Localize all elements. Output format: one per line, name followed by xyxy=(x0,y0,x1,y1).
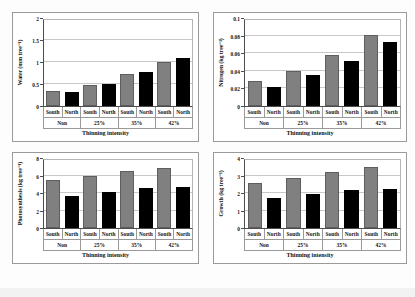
bar-series-nitrogen xyxy=(245,20,400,106)
x-group-label-35pct: 35% xyxy=(119,240,156,250)
bar-slot xyxy=(342,160,361,228)
panel-grid: 00.511.52Water (mm tree⁻¹)SouthNorthSout… xyxy=(0,0,415,280)
bar-photosynthesis-Non-south xyxy=(46,180,60,228)
y-tick-mark xyxy=(40,40,43,41)
bar-slot xyxy=(155,160,174,228)
y-axis-label-water: Water (mm tree⁻¹) xyxy=(16,19,23,107)
bar-slot xyxy=(342,20,361,106)
bar-slot xyxy=(118,20,137,106)
x-axis-group-band-water: Non25%35%42% xyxy=(43,118,193,129)
x-aspect-label-south: South xyxy=(362,229,382,239)
x-aspect-label-south: South xyxy=(81,229,100,239)
panel-water-frame: 00.511.52Water (mm tree⁻¹)SouthNorthSout… xyxy=(12,12,199,142)
bar-nitrogen-42pct-north xyxy=(383,42,397,106)
bar-slot xyxy=(81,20,100,106)
x-group-label-42pct: 42% xyxy=(362,240,400,250)
bar-slot xyxy=(381,160,400,228)
x-group-label-25pct: 25% xyxy=(81,240,118,250)
x-aspect-label-north: North xyxy=(382,229,401,239)
bar-growth-25pct-south xyxy=(286,178,300,228)
bar-slot xyxy=(63,20,82,106)
x-axis-title-water: Thinning intensity xyxy=(13,130,198,136)
y-axis-label-growth: Growth (kg tree⁻¹) xyxy=(217,159,224,229)
bar-slot xyxy=(118,160,137,228)
bar-slot xyxy=(303,20,322,106)
y-tick-label: 4 xyxy=(36,191,39,197)
y-tick-label: 0.04 xyxy=(231,69,240,75)
x-aspect-label-north: North xyxy=(63,107,82,117)
y-tick-mark xyxy=(40,193,43,194)
x-aspect-label-north: North xyxy=(174,229,192,239)
bar-growth-35pct-north xyxy=(344,190,358,228)
x-aspect-label-south: South xyxy=(156,107,175,117)
bar-growth-Non-north xyxy=(267,198,281,228)
figure-four-panel-bar-charts: 00.511.52Water (mm tree⁻¹)SouthNorthSout… xyxy=(0,0,415,297)
panel-growth: 01234Growth (kg tree⁻¹)SouthNorthSouthNo… xyxy=(207,148,415,280)
x-aspect-label-north: North xyxy=(343,229,363,239)
y-tick-label: 2 xyxy=(36,16,39,22)
bar-water-Non-north xyxy=(65,92,79,106)
x-aspect-label-north: North xyxy=(100,107,119,117)
x-aspect-label-south: South xyxy=(119,107,138,117)
y-tick-label: 0 xyxy=(36,104,39,110)
x-group-label-35pct: 35% xyxy=(323,118,362,128)
bar-slot xyxy=(245,160,264,228)
x-aspect-label-south: South xyxy=(81,107,100,117)
bar-slot xyxy=(137,160,156,228)
bar-nitrogen-Non-north xyxy=(267,87,281,106)
bar-water-35pct-south xyxy=(120,74,134,106)
x-aspect-label-south: South xyxy=(119,229,138,239)
x-aspect-label-south: South xyxy=(284,229,304,239)
y-tick-label: 1 xyxy=(237,209,240,215)
x-aspect-label-north: North xyxy=(304,107,324,117)
x-aspect-label-south: South xyxy=(323,107,343,117)
bar-slot xyxy=(174,20,193,106)
x-group-label-25pct: 25% xyxy=(284,118,323,128)
x-aspect-label-south: South xyxy=(245,229,265,239)
x-axis-group-band-photosynthesis: Non25%35%42% xyxy=(43,240,193,251)
bar-photosynthesis-25pct-north xyxy=(102,192,116,228)
x-axis-aspect-band-photosynthesis: SouthNorthSouthNorthSouthNorthSouthNorth xyxy=(43,229,193,240)
y-tick-mark xyxy=(241,18,244,19)
bar-slot xyxy=(381,20,400,106)
y-tick-mark xyxy=(40,18,43,19)
bar-slot xyxy=(361,20,380,106)
y-axis-label-nitrogen: Nitrogen (kg tree⁻¹) xyxy=(217,19,224,107)
bar-slot xyxy=(100,20,119,106)
x-aspect-label-north: North xyxy=(265,107,285,117)
bar-slot xyxy=(137,20,156,106)
y-tick-label: 0 xyxy=(237,226,240,232)
x-axis-title-nitrogen: Thinning intensity xyxy=(214,130,406,136)
y-tick-mark xyxy=(40,176,43,177)
bar-series-water xyxy=(44,20,192,106)
plot-area-nitrogen xyxy=(244,19,401,107)
y-tick-label: 4 xyxy=(237,156,240,162)
bar-slot xyxy=(44,20,63,106)
bar-growth-42pct-south xyxy=(364,167,378,228)
y-tick-mark xyxy=(40,211,43,212)
bar-slot xyxy=(264,160,283,228)
y-tick-label: 8 xyxy=(36,156,39,162)
x-aspect-label-north: North xyxy=(265,229,285,239)
x-group-label-25pct: 25% xyxy=(81,118,118,128)
y-tick-mark xyxy=(241,71,244,72)
bar-photosynthesis-42pct-south xyxy=(157,168,171,228)
x-aspect-label-north: North xyxy=(100,229,119,239)
bar-water-35pct-north xyxy=(139,72,153,106)
y-tick-mark xyxy=(241,53,244,54)
bar-slot xyxy=(100,160,119,228)
bar-slot xyxy=(264,20,283,106)
bar-slot xyxy=(323,20,342,106)
bar-nitrogen-25pct-south xyxy=(286,71,300,106)
y-tick-label: 0.1 xyxy=(233,16,240,22)
bar-slot xyxy=(361,160,380,228)
x-group-label-42pct: 42% xyxy=(156,240,192,250)
bar-nitrogen-Non-south xyxy=(248,81,262,106)
x-axis-title-photosynthesis: Thinning intensity xyxy=(13,252,198,258)
x-group-label-42pct: 42% xyxy=(362,118,400,128)
scan-artifact xyxy=(0,288,415,297)
bar-nitrogen-42pct-south xyxy=(364,35,378,106)
x-group-label-35pct: 35% xyxy=(323,240,362,250)
x-group-label-25pct: 25% xyxy=(284,240,323,250)
x-aspect-label-north: North xyxy=(343,107,363,117)
